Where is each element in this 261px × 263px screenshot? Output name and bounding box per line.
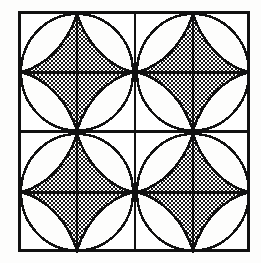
cell-top-right xyxy=(137,14,249,131)
cell-top-left xyxy=(21,14,133,131)
pattern-svg: Four-petal rosette tiling Two-by-two gri… xyxy=(0,0,261,263)
figure-root: Four-petal rosette tiling Two-by-two gri… xyxy=(0,0,261,263)
cell-bottom-right xyxy=(137,134,249,251)
cell-bottom-left xyxy=(21,134,133,251)
